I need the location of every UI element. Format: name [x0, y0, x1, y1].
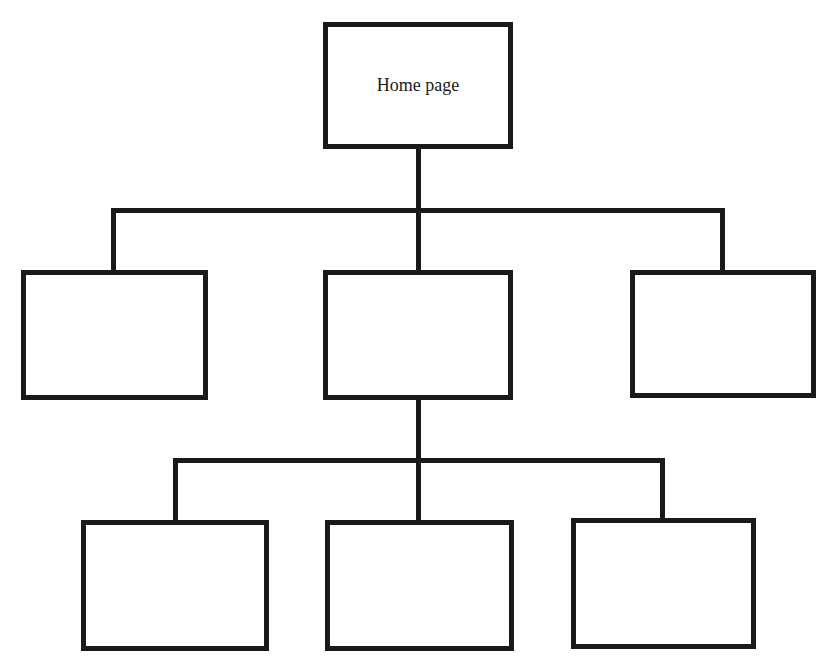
node-home-page-label: Home page: [377, 75, 459, 96]
node-level2-center: [323, 270, 513, 400]
node-level3-center: [325, 520, 514, 651]
connector-level3-bar: [173, 458, 665, 463]
node-level2-right: [630, 270, 816, 398]
node-level3-left: [81, 520, 269, 651]
connector-level3-left-drop: [173, 458, 178, 522]
connector-level3-right-drop: [660, 458, 665, 520]
site-map-diagram: Home page: [0, 0, 831, 661]
node-home-page: Home page: [323, 22, 513, 149]
connector-level2-left-drop: [111, 208, 116, 272]
node-level2-left: [21, 270, 208, 400]
node-level3-right: [571, 518, 756, 649]
connector-level2-bar: [111, 208, 725, 213]
connector-level2-right-drop: [720, 208, 725, 272]
